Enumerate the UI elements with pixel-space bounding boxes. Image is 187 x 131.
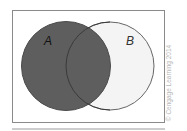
set-a-label: A: [43, 34, 52, 48]
copyright-credit: © Cengage Learning 2014: [165, 43, 175, 123]
venn-diagram: A B: [0, 0, 187, 131]
set-b-label: B: [126, 34, 134, 48]
